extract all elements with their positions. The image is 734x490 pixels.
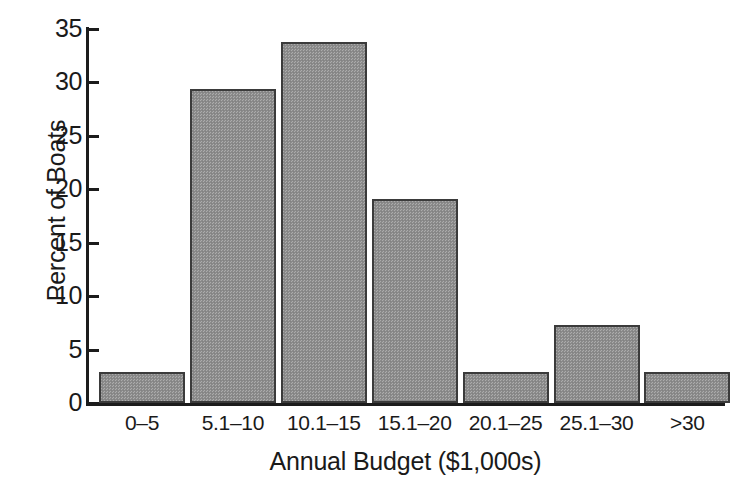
bar (99, 372, 185, 403)
bar (372, 199, 458, 403)
bar (463, 372, 549, 403)
bar (644, 372, 730, 403)
x-tick-label: >30 (634, 411, 734, 435)
bar-chart: Percent of Boats 35 30 25 20 15 10 5 0 0… (0, 0, 734, 490)
bar (554, 325, 640, 403)
bar (190, 89, 276, 403)
bar (281, 42, 367, 403)
x-axis-title: Annual Budget ($1,000s) (86, 447, 725, 476)
